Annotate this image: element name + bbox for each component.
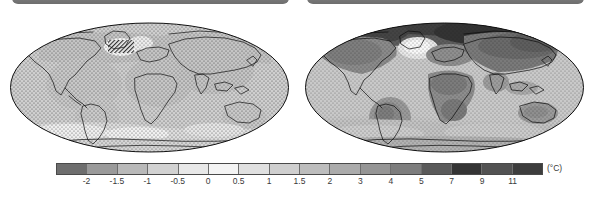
colorbar-tick-2: -1 (144, 176, 152, 186)
colorbar-segment-13 (452, 164, 482, 174)
colorbar-tick-14: 11 (508, 176, 517, 186)
colorbar-tick-3: -0.5 (170, 176, 185, 186)
map-panel-right (304, 22, 585, 153)
map-svg-left (9, 22, 290, 153)
colorbar-segment-4 (179, 164, 209, 174)
panel-title-bar-right (307, 0, 584, 4)
colorbar-segment-8 (300, 164, 330, 174)
colorbar-tick-0: -2 (83, 176, 91, 186)
colorbar-tick-5: 0.5 (233, 176, 245, 186)
colorbar-segment-11 (391, 164, 421, 174)
colorbar-segment-9 (330, 164, 360, 174)
colorbar-tick-8: 2 (328, 176, 333, 186)
colorbar-segment-0 (57, 164, 87, 174)
colorbar-tick-13: 9 (480, 176, 485, 186)
map-svg-right (304, 22, 585, 153)
colorbar-segment-3 (148, 164, 178, 174)
colorbar-tick-9: 3 (358, 176, 363, 186)
colorbar-tick-11: 5 (419, 176, 424, 186)
colorbar-segment-1 (87, 164, 117, 174)
colorbar-segment-2 (118, 164, 148, 174)
colorbar-unit-label: (°C) (547, 163, 562, 174)
colorbar-tick-4: 0 (206, 176, 211, 186)
colorbar-tick-12: 7 (449, 176, 454, 186)
colorbar-tick-labels: -2-1.5-1-0.500.511.523457911 (0, 176, 592, 188)
panel-title-bar-left (12, 0, 289, 4)
colorbar (56, 163, 543, 175)
colorbar-segment-6 (239, 164, 269, 174)
colorbar-segment-15 (513, 164, 542, 174)
colorbar-tick-7: 1.5 (294, 176, 306, 186)
map-panel-left (9, 22, 290, 153)
colorbar-segment-14 (482, 164, 512, 174)
colorbar-segment-5 (209, 164, 239, 174)
colorbar-tick-6: 1 (267, 176, 272, 186)
colorbar-segment-12 (422, 164, 452, 174)
colorbar-tick-1: -1.5 (110, 176, 125, 186)
colorbar-tick-10: 4 (388, 176, 393, 186)
colorbar-segment-10 (361, 164, 391, 174)
colorbar-segment-7 (270, 164, 300, 174)
